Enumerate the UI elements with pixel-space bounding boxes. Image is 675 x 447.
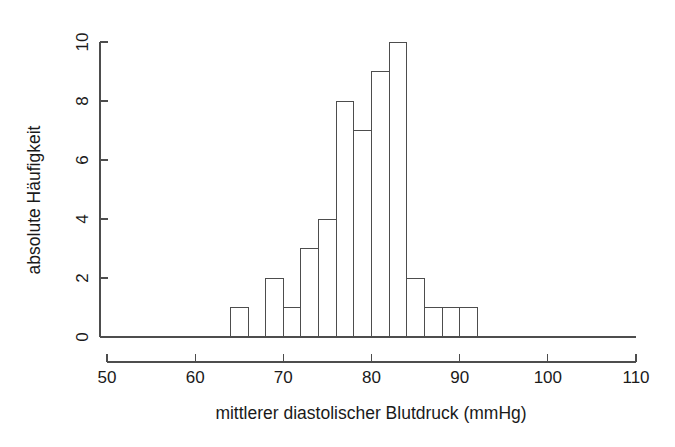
histogram-bar — [424, 308, 442, 338]
histogram-bar — [301, 249, 319, 338]
histogram-bar — [442, 308, 460, 338]
histogram-bar — [230, 308, 248, 338]
histogram-bar — [389, 42, 407, 337]
y-axis-tick-label: 8 — [73, 96, 92, 105]
x-axis-tick-label: 50 — [98, 368, 117, 387]
histogram-bar — [283, 308, 301, 338]
histogram-chart: 5060708090100110 mittlerer diastolischer… — [0, 0, 675, 447]
y-axis-tick-label: 10 — [73, 33, 92, 52]
x-axis-tick-label: 90 — [450, 368, 469, 387]
y-axis-tick-label: 2 — [73, 273, 92, 282]
x-axis-tick-label: 80 — [362, 368, 381, 387]
y-axis: 0246810 absolute Häufigkeit — [24, 33, 108, 342]
x-axis-title: mittlerer diastolischer Blutdruck (mmHg) — [215, 403, 526, 423]
histogram-bar — [266, 278, 284, 337]
y-axis-tick-labels: 0246810 — [73, 33, 92, 342]
histogram-bar — [354, 131, 372, 338]
histogram-bar — [336, 101, 354, 337]
y-axis-title: absolute Häufigkeit — [24, 125, 44, 274]
x-axis-ticks — [107, 354, 636, 362]
x-axis-tick-label: 100 — [534, 368, 562, 387]
y-axis-tick-label: 6 — [73, 155, 92, 164]
histogram-bars-group — [230, 42, 477, 337]
histogram-plot-container: 5060708090100110 mittlerer diastolischer… — [0, 0, 675, 447]
x-axis-tick-label: 70 — [274, 368, 293, 387]
x-axis-tick-label: 110 — [622, 368, 649, 387]
histogram-bar — [319, 219, 337, 337]
x-axis-tick-labels: 5060708090100110 — [98, 368, 650, 387]
histogram-bar — [407, 278, 425, 337]
x-axis: 5060708090100110 mittlerer diastolischer… — [98, 354, 650, 423]
histogram-bar — [372, 72, 390, 338]
y-axis-ticks — [100, 42, 108, 337]
y-axis-tick-label: 0 — [73, 332, 92, 341]
y-axis-tick-label: 4 — [73, 214, 92, 223]
histogram-bar — [460, 308, 478, 338]
x-axis-tick-label: 60 — [186, 368, 205, 387]
